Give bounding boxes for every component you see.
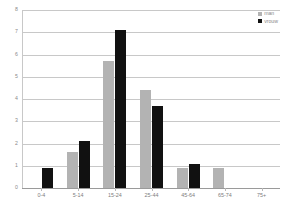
legend-item-man[interactable]: man xyxy=(258,11,278,16)
x-axis-label-65-74: 65-74 xyxy=(207,193,244,198)
bar-man-5-14 xyxy=(67,152,78,188)
bar-group xyxy=(96,10,133,188)
y-axis-tick-label: 7 xyxy=(15,30,18,35)
legend-swatch-icon xyxy=(258,12,262,16)
bar-vrouw-45-64 xyxy=(189,164,200,188)
bar-vrouw-5-14 xyxy=(79,141,90,188)
bar-group xyxy=(23,10,60,188)
y-axis-tick-label: 1 xyxy=(15,163,18,168)
bar-man-15-24 xyxy=(103,61,114,188)
bar-vrouw-0-4 xyxy=(42,168,53,188)
bar-group xyxy=(207,10,244,188)
y-axis-tick-label: 4 xyxy=(15,96,18,101)
bar-man-65-74 xyxy=(213,168,224,188)
y-axis-tick-label: 0 xyxy=(15,185,18,190)
x-axis-label-15-24: 15-24 xyxy=(96,193,133,198)
y-axis-tick-label: 6 xyxy=(15,52,18,57)
legend-item-vrouw[interactable]: vrouw xyxy=(258,19,278,24)
legend-swatch-icon xyxy=(258,19,262,23)
y-axis-tick-label: 3 xyxy=(15,119,18,124)
bar-group xyxy=(133,10,170,188)
y-axis-tick-label: 8 xyxy=(15,7,18,12)
plot-area: 012345678 xyxy=(22,10,280,188)
x-axis-labels: 0-45-1415-2425-4445-6465-7475+ xyxy=(23,193,280,198)
bar-chart: 012345678 0-45-1415-2425-4445-6465-7475+… xyxy=(0,0,286,210)
bar-man-25-44 xyxy=(140,90,151,188)
y-axis-tick-label: 5 xyxy=(15,74,18,79)
bar-groups xyxy=(23,10,280,188)
x-axis-label-75+: 75+ xyxy=(243,193,280,198)
bar-group xyxy=(243,10,280,188)
bar-group xyxy=(170,10,207,188)
x-axis-label-0-4: 0-4 xyxy=(23,193,60,198)
x-axis-label-45-64: 45-64 xyxy=(170,193,207,198)
bar-vrouw-15-24 xyxy=(115,30,126,188)
legend-label: man xyxy=(264,11,274,16)
bar-man-45-64 xyxy=(177,168,188,188)
x-axis-label-25-44: 25-44 xyxy=(133,193,170,198)
legend-label: vrouw xyxy=(264,19,278,24)
bar-vrouw-25-44 xyxy=(152,106,163,188)
x-axis-label-5-14: 5-14 xyxy=(60,193,97,198)
y-axis-tick-label: 2 xyxy=(15,141,18,146)
chart-legend: manvrouw xyxy=(258,11,278,24)
bar-group xyxy=(60,10,97,188)
